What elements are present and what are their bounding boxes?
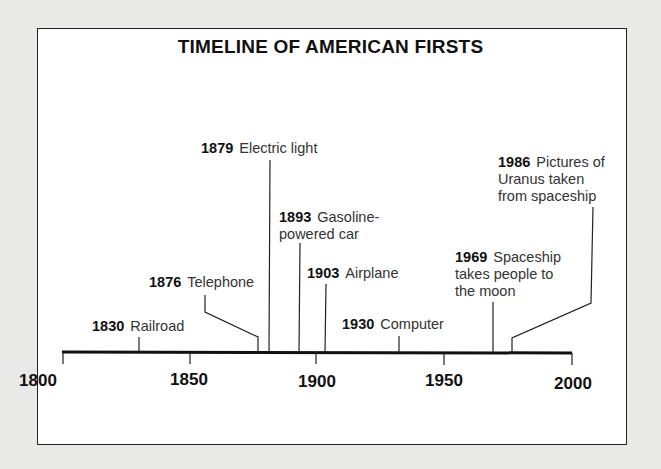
event-1969: 1969Spaceship takes people to the moon (455, 249, 561, 300)
event-1876: 1876Telephone (149, 274, 254, 291)
tick-label-1800: 1800 (19, 371, 57, 391)
leader-1879 (269, 160, 270, 352)
tick-label-1900: 1900 (298, 372, 336, 392)
tick-label-1850: 1850 (170, 370, 208, 390)
tick-label-2000: 2000 (554, 374, 592, 394)
leader-1903 (325, 284, 326, 352)
leader-1893 (299, 243, 300, 352)
event-1930: 1930Computer (342, 316, 444, 333)
event-1903: 1903Airplane (307, 265, 398, 282)
timeline-axis (62, 352, 572, 353)
leader-1876 (205, 295, 258, 352)
event-1893: 1893Gasoline- powered car (279, 209, 379, 243)
event-1986: 1986Pictures of Uranus taken from spaces… (498, 154, 605, 205)
tick-label-1950: 1950 (425, 371, 463, 391)
event-1879: 1879Electric light (201, 140, 317, 157)
event-1830: 1830Railroad (92, 318, 184, 335)
